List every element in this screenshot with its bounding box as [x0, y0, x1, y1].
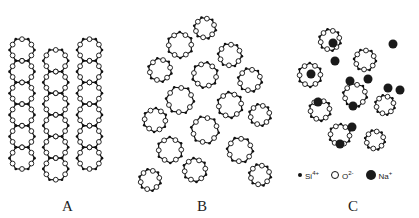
legend-item-na: Na+: [366, 170, 393, 181]
panel-label-a: A: [62, 198, 73, 215]
na-ion-icon: [366, 170, 376, 180]
legend-si-label: Si4+: [305, 170, 319, 181]
o-atom-icon: [331, 171, 339, 179]
panel-c-modified-glass-network: [297, 28, 404, 151]
silica-structure-diagram: [0, 0, 419, 218]
legend-na-label: Na+: [379, 170, 393, 181]
panel-label-c: C: [348, 198, 358, 215]
panel-a-crystalline-network: [8, 37, 103, 182]
legend-item-si: Si4+: [298, 170, 319, 181]
panel-label-b: B: [197, 198, 207, 215]
legend-o-label: O2-: [342, 170, 354, 181]
legend: Si4+ O2- Na+: [298, 170, 392, 181]
panel-b-glass-network: [138, 16, 272, 192]
legend-item-o: O2-: [331, 170, 354, 181]
si-atom-icon: [298, 173, 302, 177]
